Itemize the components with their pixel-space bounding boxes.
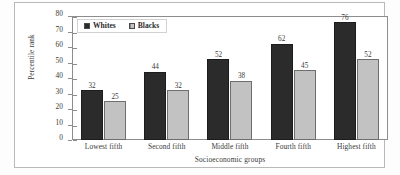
bar-blacks-4[interactable]: 52 xyxy=(357,59,379,140)
legend-label-whites: Whites xyxy=(93,22,116,30)
x-axis-title: Socioeconomic groups xyxy=(72,155,388,164)
x-axis-tick-label: Fourth fifth xyxy=(275,143,310,150)
legend-entry-whites[interactable]: Whites xyxy=(84,22,116,30)
x-axis-tick-label: Lowest fifth xyxy=(85,143,123,150)
bar-blacks-0[interactable]: 25 xyxy=(104,101,126,140)
y-axis-title: Percentile rank xyxy=(28,17,36,97)
x-axis-tick-label: Second fifth xyxy=(148,143,186,150)
y-axis-tick-label: 80 xyxy=(55,10,63,17)
x-axis-tick-label: Middle fifth xyxy=(211,143,248,150)
bar-value-label: 52 xyxy=(364,52,371,59)
bar-whites-3[interactable]: 62 xyxy=(271,44,293,140)
bar-value-label: 32 xyxy=(175,83,182,90)
y-axis-tick-label: 50 xyxy=(55,57,63,64)
y-axis-tick-label: 40 xyxy=(55,72,63,79)
bar-whites-0[interactable]: 32 xyxy=(81,90,103,140)
y-axis-tick-label: 10 xyxy=(55,119,63,126)
legend-swatch-blacks-icon xyxy=(129,23,135,29)
y-axis-tick-label: 20 xyxy=(55,103,63,110)
bar-blacks-3[interactable]: 45 xyxy=(294,70,316,140)
bar-value-label: 38 xyxy=(238,73,245,80)
bar-blacks-2[interactable]: 38 xyxy=(230,81,252,140)
bar-value-label: 76 xyxy=(341,15,348,22)
legend-label-blacks: Blacks xyxy=(138,22,160,30)
chart-legend: Whites Blacks xyxy=(77,19,167,33)
bar-whites-4[interactable]: 76 xyxy=(334,22,356,140)
y-axis-tick-label: 0 xyxy=(59,134,63,141)
bar-value-label: 32 xyxy=(89,83,96,90)
bar-value-label: 44 xyxy=(152,64,159,71)
bar-value-label: 45 xyxy=(301,63,308,70)
y-axis-tick-label: 60 xyxy=(55,41,63,48)
bar-whites-1[interactable]: 44 xyxy=(144,72,166,140)
y-axis: Percentile rank 80706050403020100 xyxy=(15,3,72,141)
bar-group: 4432 xyxy=(135,16,198,140)
bar-blacks-1[interactable]: 32 xyxy=(167,90,189,140)
bar-value-label: 62 xyxy=(278,36,285,43)
plot-frame-tick xyxy=(73,140,77,141)
bar-group: 5238 xyxy=(198,16,261,140)
bar-value-label: 52 xyxy=(215,52,222,59)
y-axis-tick-label: 70 xyxy=(55,26,63,33)
bar-group: 3225 xyxy=(72,16,135,140)
x-axis-tick-labels: Lowest fifthSecond fifthMiddle fifthFour… xyxy=(72,143,388,154)
x-axis-tick-label: Highest fifth xyxy=(337,143,376,150)
bar-group: 7652 xyxy=(325,16,388,140)
bars-layer: 32254432523862457652 xyxy=(72,16,388,140)
figure-outer-border: Percentile rank 80706050403020100 322544… xyxy=(14,2,385,168)
y-axis-tick-label: 30 xyxy=(55,88,63,95)
legend-swatch-whites-icon xyxy=(84,23,90,29)
figure-root: Percentile rank 80706050403020100 322544… xyxy=(0,0,400,175)
y-axis-tick-mark xyxy=(68,140,72,141)
legend-entry-blacks[interactable]: Blacks xyxy=(129,22,160,30)
bar-whites-2[interactable]: 52 xyxy=(207,59,229,140)
bar-group: 6245 xyxy=(262,16,325,140)
bar-value-label: 25 xyxy=(112,94,119,101)
